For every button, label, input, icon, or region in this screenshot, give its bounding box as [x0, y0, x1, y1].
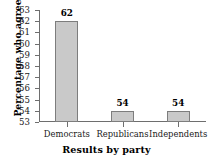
y-tick-label: 59 — [19, 50, 30, 60]
bar-chart: Percentage who agree 5354555657585960616… — [0, 0, 213, 167]
bar — [111, 111, 134, 122]
y-tick-mark: 62 — [35, 21, 39, 22]
x-tick-mark — [178, 122, 179, 127]
x-tick-label: Democrats — [44, 129, 90, 139]
y-tick-mark: 54 — [35, 111, 39, 112]
y-tick-label: 56 — [19, 83, 30, 93]
y-tick-label: 61 — [19, 27, 30, 37]
y-tick-label: 53 — [19, 117, 30, 127]
y-tick-label: 58 — [19, 61, 30, 71]
y-tick-mark: 53 — [35, 122, 39, 123]
x-axis-title: Results by party — [0, 144, 213, 155]
y-axis-line — [39, 10, 40, 122]
y-tick-mark: 63 — [35, 10, 39, 11]
y-tick-mark: 56 — [35, 88, 39, 89]
plot-area: 5354555657585960616263 625454 DemocratsR… — [39, 10, 206, 122]
y-tick-label: 55 — [19, 95, 30, 105]
y-tick-label: 54 — [19, 106, 30, 116]
x-tick-mark — [67, 122, 68, 127]
bar — [167, 111, 190, 122]
x-tick-mark — [123, 122, 124, 127]
y-tick-label: 63 — [19, 5, 30, 15]
x-tick-label: Independents — [149, 129, 207, 139]
y-tick-label: 60 — [19, 39, 30, 49]
bar-value-label: 54 — [116, 98, 128, 108]
bar — [55, 21, 78, 122]
x-tick-label: Republicans — [96, 129, 148, 139]
y-tick-label: 62 — [19, 16, 30, 26]
y-tick-label: 57 — [19, 72, 30, 82]
y-tick-mark: 59 — [35, 55, 39, 56]
y-tick-mark: 60 — [35, 44, 39, 45]
y-tick-mark: 61 — [35, 32, 39, 33]
y-tick-mark: 55 — [35, 100, 39, 101]
bar-value-label: 62 — [61, 8, 73, 18]
bar-value-label: 54 — [172, 98, 184, 108]
y-tick-mark: 58 — [35, 66, 39, 67]
y-tick-mark: 57 — [35, 77, 39, 78]
